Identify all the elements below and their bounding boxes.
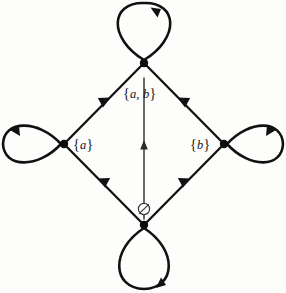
node-right-b[interactable] (220, 140, 228, 148)
node-top-ab[interactable] (140, 59, 148, 67)
node-label-left: {a} (73, 137, 93, 153)
arrowhead-right-to-top-icon (178, 98, 191, 108)
label-left-close-brace: } (86, 137, 93, 152)
self-loop-left-path (3, 126, 61, 163)
diagram-canvas: {a, b} {a} {b} (0, 0, 286, 293)
node-bottom-emptyset[interactable] (140, 221, 148, 229)
label-top-text: a, b (130, 87, 150, 101)
label-top-open-brace: { (123, 86, 130, 101)
self-loop-right-path (227, 126, 283, 163)
self-loop-left (3, 125, 61, 162)
diagram-graphics (0, 0, 286, 293)
self-loop-top-path (118, 3, 171, 60)
arrowhead-bottom-to-left-icon (98, 178, 111, 188)
label-left-open-brace: { (73, 137, 80, 152)
label-right-close-brace: } (203, 137, 210, 152)
self-loop-top (118, 3, 171, 60)
self-loop-bottom (119, 228, 169, 289)
self-loop-right (227, 125, 283, 162)
node-label-right: {b} (190, 137, 210, 153)
label-top-close-brace: } (149, 86, 156, 101)
arrowhead-left-to-top-icon (98, 98, 111, 108)
emptyset-symbol-icon (138, 203, 149, 214)
node-left-a[interactable] (60, 140, 68, 148)
arrowhead-bottom-to-right-icon (178, 178, 191, 188)
node-label-top: {a, b} (123, 86, 156, 102)
label-right-open-brace: { (190, 137, 197, 152)
self-loop-top-arrowhead-icon (151, 8, 162, 18)
center-arrowhead-icon (140, 140, 148, 150)
